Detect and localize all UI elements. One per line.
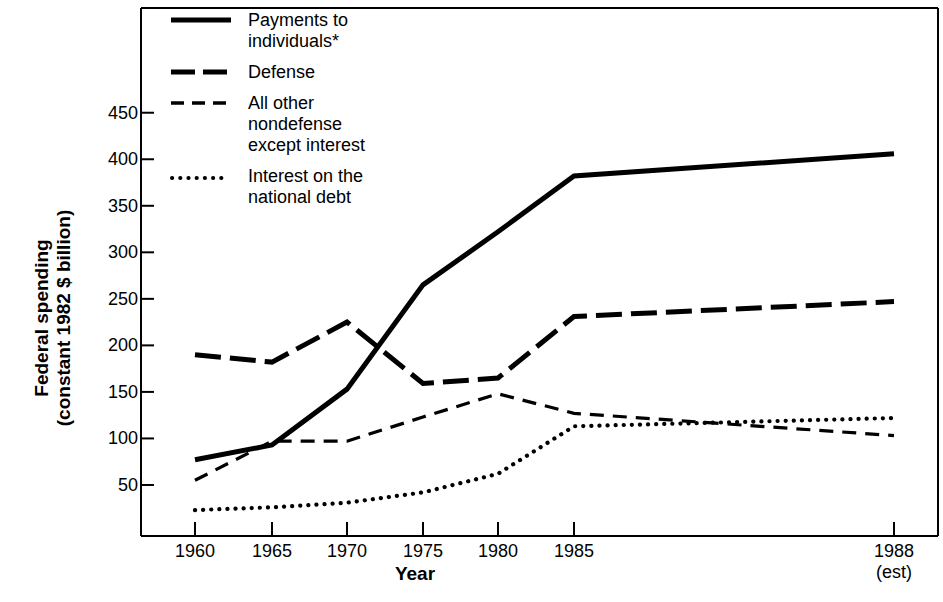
plot-area	[0, 0, 943, 602]
series-line-interest-on-national-debt	[195, 418, 894, 510]
chart-figure: Federal spending (constant 1982 $ billio…	[0, 0, 943, 602]
series-line-all-other-nondefense	[195, 394, 894, 481]
series-line-defense	[195, 302, 894, 384]
